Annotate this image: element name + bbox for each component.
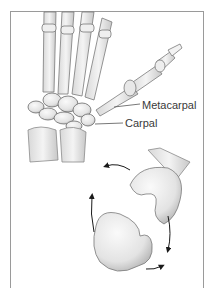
- finger-bones: [42, 12, 112, 100]
- saddle-joint-illustration: [91, 148, 190, 271]
- carpal-label: Carpal: [125, 117, 157, 129]
- metacarpal-label: Metacarpal: [142, 99, 196, 111]
- hand-skeleton-illustration: [0, 0, 213, 289]
- forearm-bones: [28, 127, 86, 162]
- carpal-bones: [28, 93, 95, 131]
